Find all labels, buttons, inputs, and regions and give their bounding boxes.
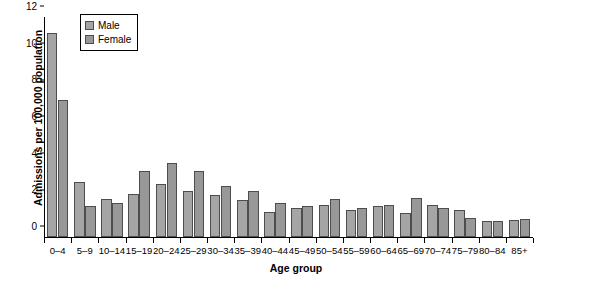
bar-group	[156, 17, 178, 237]
y-tick-label: 6	[31, 111, 40, 122]
bar-group	[237, 17, 259, 237]
y-tick-label: 2	[31, 184, 40, 195]
bar-female	[411, 198, 422, 237]
bar-male	[346, 210, 357, 237]
y-tick-12: 12	[26, 1, 44, 12]
x-tick-mark	[207, 238, 208, 243]
x-tick-mark	[452, 238, 453, 243]
x-tick-mark	[397, 238, 398, 243]
x-tick-label: 80–84	[479, 245, 505, 256]
x-tick-mark	[126, 238, 127, 243]
bar-female	[58, 100, 69, 237]
x-tick-mark	[316, 238, 317, 243]
bar-female	[465, 218, 476, 237]
x-tick-mark	[98, 238, 99, 243]
x-tick-label: 60–64	[370, 245, 396, 256]
x-tick-label: 75–79	[452, 245, 478, 256]
y-tick-label: 10	[26, 37, 40, 48]
x-axis-title: Age group	[0, 262, 592, 274]
x-tick-mark	[261, 238, 262, 243]
bar-female	[167, 163, 178, 237]
bar-male	[509, 220, 520, 237]
x-tick-label: 10–14	[99, 245, 125, 256]
bar-male	[156, 184, 167, 237]
x-tick-mark	[533, 238, 534, 243]
bar-male	[482, 221, 493, 237]
legend-label-male: Male	[98, 19, 120, 32]
x-tick-label: 45–49	[289, 245, 315, 256]
bar-male	[237, 200, 248, 237]
y-tick-mark	[40, 6, 44, 7]
bar-chart-figure: Admissions per 100,000 population 024681…	[0, 0, 592, 284]
bar-male	[101, 199, 112, 238]
x-tick-label: 40–44	[262, 245, 288, 256]
x-tick-mark	[153, 238, 154, 243]
bar-group	[210, 17, 232, 237]
bar-female	[275, 203, 286, 237]
x-tick-mark	[44, 238, 45, 243]
legend-item-male: Male	[85, 19, 131, 32]
legend-label-female: Female	[98, 33, 131, 46]
x-tick-mark	[71, 238, 72, 243]
x-tick-label: 20–24	[153, 245, 179, 256]
bar-female	[139, 171, 150, 237]
bar-group	[427, 17, 449, 237]
bar-male	[264, 212, 275, 237]
male-swatch-icon	[85, 21, 94, 30]
y-tick-6: 6	[31, 111, 44, 122]
bar-group	[482, 17, 504, 237]
x-tick-mark	[180, 238, 181, 243]
x-tick-label: 5–9	[77, 245, 93, 256]
bar-male	[373, 206, 384, 237]
bar-female	[248, 191, 259, 237]
bar-male	[47, 33, 58, 237]
x-tick-label: 50–54	[316, 245, 342, 256]
x-tick-label: 85+	[511, 245, 527, 256]
bar-group	[346, 17, 368, 237]
x-tick-mark	[479, 238, 480, 243]
bar-male	[427, 205, 438, 237]
bar-male	[291, 208, 302, 237]
bar-female	[85, 206, 96, 237]
x-tick-mark	[506, 238, 507, 243]
bar-female	[357, 208, 368, 237]
bar-female	[520, 219, 531, 237]
bar-female	[221, 186, 232, 237]
y-tick-8: 8	[31, 74, 44, 85]
bar-group	[454, 17, 476, 237]
x-tick-label: 70–74	[425, 245, 451, 256]
bar-female	[112, 203, 123, 237]
bar-male	[183, 191, 194, 237]
bar-female	[330, 199, 341, 238]
bar-female	[194, 171, 205, 237]
y-tick-4: 4	[31, 147, 44, 158]
x-tick-label: 0–4	[50, 245, 66, 256]
y-tick-label: 0	[31, 221, 40, 232]
x-tick-mark	[289, 238, 290, 243]
y-tick-0: 0	[31, 221, 44, 232]
bar-female	[302, 206, 313, 237]
bar-group	[264, 17, 286, 237]
bar-male	[454, 210, 465, 238]
y-tick-label: 4	[31, 147, 40, 158]
x-tick-mark	[424, 238, 425, 243]
bar-group	[183, 17, 205, 237]
chart-legend: Male Female	[80, 14, 138, 51]
bar-group	[319, 17, 341, 237]
x-tick-mark	[343, 238, 344, 243]
bar-male	[400, 213, 411, 237]
y-tick-10: 10	[26, 37, 44, 48]
bar-female	[438, 208, 449, 237]
x-tick-label: 35–39	[235, 245, 261, 256]
x-tick-label: 30–34	[207, 245, 233, 256]
bar-group	[373, 17, 395, 237]
y-tick-label: 12	[26, 1, 40, 12]
x-tick-label: 15–19	[126, 245, 152, 256]
bar-male	[210, 195, 221, 237]
bar-group	[291, 17, 313, 237]
bar-group	[47, 17, 69, 237]
x-tick-mark	[234, 238, 235, 243]
bar-male	[319, 205, 330, 237]
bar-male	[128, 194, 139, 237]
x-tick-label: 65–69	[398, 245, 424, 256]
